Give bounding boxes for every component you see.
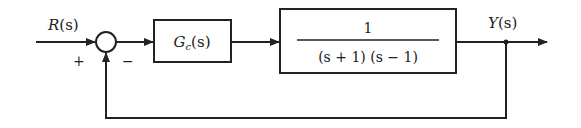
plant-denominator: (s + 1) (s − 1): [318, 49, 418, 65]
block-diagram: R(s) + − Gc(s) 1 (s + 1) (s − 1) Y(s): [0, 0, 581, 128]
input-label: R(s): [47, 16, 79, 34]
summing-junction: [96, 32, 116, 52]
plant-numerator: 1: [364, 20, 373, 36]
controller-label: Gc(s): [174, 33, 211, 52]
plus-sign: +: [73, 53, 85, 69]
output-label: Y(s): [488, 14, 517, 32]
minus-sign: −: [122, 53, 134, 69]
